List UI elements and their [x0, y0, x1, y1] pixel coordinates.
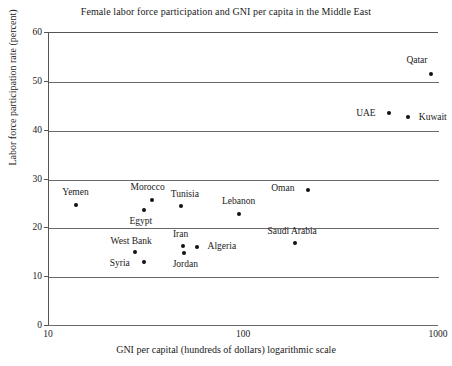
data-point[interactable]: [237, 212, 241, 216]
y-axis-tick-label: 30: [16, 174, 42, 184]
plot-area: [48, 32, 438, 325]
data-point-label: Saudi Arabia: [267, 226, 316, 236]
y-axis-tick-mark: [44, 81, 48, 82]
data-point[interactable]: [406, 115, 410, 119]
data-point[interactable]: [74, 203, 78, 207]
x-axis-tick-label: 1000: [429, 329, 448, 339]
data-point[interactable]: [133, 250, 137, 254]
data-point[interactable]: [150, 198, 154, 202]
plot-inner: [49, 33, 438, 325]
data-point-label: Morocco: [130, 182, 164, 192]
data-point-label: Oman: [271, 183, 294, 193]
data-point[interactable]: [142, 260, 146, 264]
data-point[interactable]: [293, 241, 297, 245]
data-point-label: Tunisia: [171, 189, 199, 199]
y-axis-tick-label: 60: [16, 27, 42, 37]
data-point[interactable]: [179, 204, 183, 208]
gridline: [49, 131, 439, 132]
x-axis-tick-label: 100: [236, 329, 250, 339]
chart-title: Female labor force participation and GNI…: [0, 6, 452, 17]
y-axis-tick-mark: [44, 32, 48, 33]
data-point[interactable]: [429, 72, 433, 76]
data-point-label: Algeria: [208, 241, 237, 251]
y-axis-tick-label: 10: [16, 271, 42, 281]
gridline: [49, 180, 439, 181]
y-axis-tick-label: 0: [16, 320, 42, 330]
data-point[interactable]: [387, 111, 391, 115]
y-axis-tick-label: 20: [16, 222, 42, 232]
y-axis-tick-mark: [44, 325, 48, 326]
data-point-label: Syria: [110, 258, 130, 268]
data-point-label: West Bank: [111, 236, 152, 246]
data-point-label: UAE: [356, 108, 376, 118]
data-point-label: Kuwait: [419, 112, 447, 122]
gridline: [49, 277, 439, 278]
data-point[interactable]: [181, 244, 185, 248]
y-axis-tick-mark: [44, 227, 48, 228]
y-axis-tick-mark: [44, 130, 48, 131]
data-point-label: Iran: [173, 229, 188, 239]
y-axis-tick-mark: [44, 179, 48, 180]
data-point[interactable]: [142, 208, 146, 212]
y-axis-tick-mark: [44, 276, 48, 277]
y-axis-tick-label: 40: [16, 125, 42, 135]
data-point-label: Yemen: [62, 187, 88, 197]
data-point[interactable]: [306, 188, 310, 192]
x-axis-tick-label: 10: [43, 329, 53, 339]
gridline: [49, 82, 439, 83]
data-point-label: Lebanon: [222, 196, 255, 206]
data-point[interactable]: [182, 251, 186, 255]
gridline: [49, 228, 439, 229]
data-point-label: Egypt: [129, 216, 152, 226]
x-axis-line: [48, 325, 438, 326]
data-point-label: Jordan: [173, 259, 198, 269]
x-axis-label: GNI per capital (hundreds of dollars) lo…: [0, 344, 452, 355]
chart-page: Female labor force participation and GNI…: [0, 0, 452, 366]
y-axis-tick-label: 50: [16, 76, 42, 86]
data-point-label: Qatar: [406, 55, 427, 65]
data-point[interactable]: [195, 245, 199, 249]
